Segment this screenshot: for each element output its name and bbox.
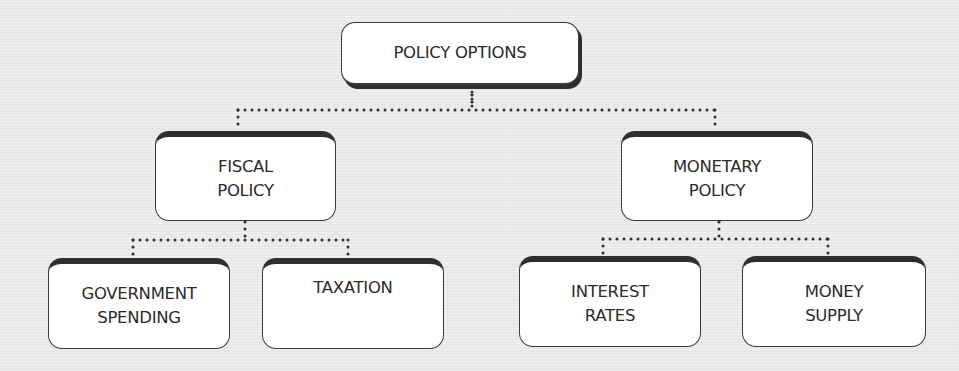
diagram-canvas: POLICY OPTIONS FISCAL POLICY MONETARY PO… bbox=[0, 0, 959, 371]
node-money-supply: MONEY SUPPLY bbox=[742, 256, 926, 347]
node-label: INTEREST bbox=[571, 280, 649, 304]
node-label: MONETARY bbox=[673, 155, 761, 179]
node-taxation: TAXATION bbox=[262, 258, 444, 349]
node-label: SUPPLY bbox=[805, 304, 863, 328]
node-label: TAXATION bbox=[313, 276, 392, 300]
node-label: FISCAL bbox=[218, 155, 273, 179]
node-label: MONEY bbox=[805, 280, 864, 304]
node-label: GOVERNMENT bbox=[81, 282, 196, 306]
connector-root-to-branches bbox=[470, 93, 473, 103]
node-label: RATES bbox=[585, 304, 635, 328]
node-monetary-policy: MONETARY POLICY bbox=[621, 131, 813, 221]
node-label: SPENDING bbox=[97, 306, 181, 330]
node-label: POLICY OPTIONS bbox=[393, 41, 526, 65]
node-government-spending: GOVERNMENT SPENDING bbox=[48, 258, 230, 349]
node-fiscal-policy: FISCAL POLICY bbox=[155, 131, 336, 221]
node-policy-options: POLICY OPTIONS bbox=[341, 22, 579, 85]
node-interest-rates: INTEREST RATES bbox=[519, 256, 701, 347]
node-label: POLICY bbox=[217, 179, 274, 203]
node-label: POLICY bbox=[689, 179, 746, 203]
